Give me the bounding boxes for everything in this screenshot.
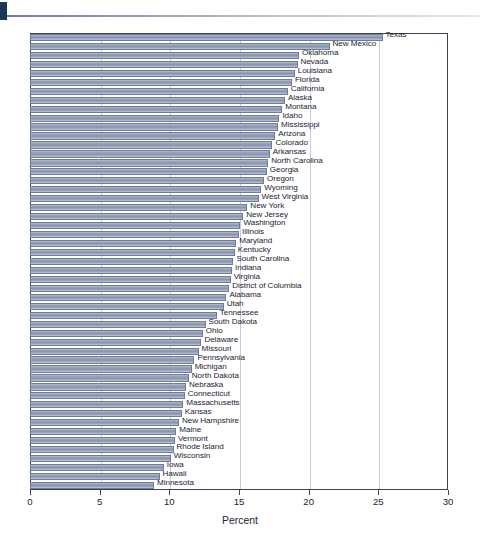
- x-tick-label-5: 5: [97, 496, 102, 507]
- x-tick-mark-10: [169, 490, 170, 495]
- x-tick-mark-0: [30, 490, 31, 495]
- x-tick-mark-15: [239, 490, 240, 495]
- x-tick-label-20: 20: [303, 496, 314, 507]
- x-tick-label-0: 0: [27, 496, 32, 507]
- x-tick-mark-20: [309, 490, 310, 495]
- x-axis-title: Percent: [0, 515, 480, 526]
- x-tick-mark-30: [448, 490, 449, 495]
- x-tick-mark-25: [378, 490, 379, 495]
- x-tick-label-30: 30: [443, 496, 454, 507]
- page-header-decoration: [0, 0, 480, 24]
- x-tick-label-15: 15: [234, 496, 245, 507]
- header-divider-rule: [7, 15, 480, 17]
- x-tick-label-25: 25: [373, 496, 384, 507]
- horizontal-bar-chart: TexasNew MexicoOklahomaNevadaLouisianaFl…: [0, 24, 480, 544]
- x-axis: Percent 051015202530: [0, 24, 480, 544]
- header-accent-tab: [0, 2, 7, 20]
- x-tick-label-10: 10: [164, 496, 175, 507]
- x-tick-mark-5: [100, 490, 101, 495]
